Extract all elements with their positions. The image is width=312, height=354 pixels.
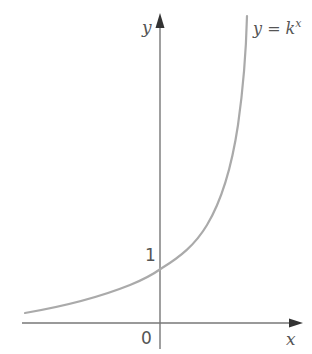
y-intercept-label: 1 (145, 245, 156, 265)
y-axis (156, 13, 165, 349)
curve-equation-base: y = k (252, 19, 295, 38)
x-axis-label: x (286, 329, 296, 349)
x-axis-arrow-icon (289, 319, 303, 328)
x-axis (22, 319, 303, 328)
origin-label: 0 (141, 328, 152, 348)
exponential-curve (25, 16, 247, 313)
y-axis-label: y (141, 17, 152, 37)
exponential-graph: y x 1 0 y = kx (0, 0, 312, 354)
curve-equation-label: y = kx (252, 17, 302, 38)
svg-text:y = kx: y = kx (252, 17, 302, 38)
y-axis-arrow-icon (156, 13, 165, 28)
curve-equation-exponent: x (295, 17, 302, 30)
